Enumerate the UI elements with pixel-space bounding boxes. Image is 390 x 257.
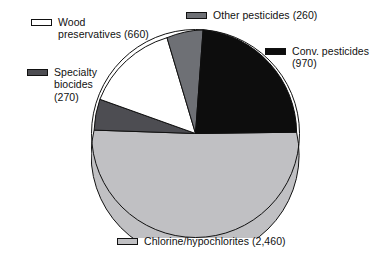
pie-chart: Other pesticides (260) Conv. pesticides … bbox=[0, 0, 390, 257]
legend-item-wood-preservatives[interactable]: Wood preservatives (660) bbox=[31, 16, 171, 41]
legend-item-other-pesticides[interactable]: Other pesticides (260) bbox=[186, 9, 317, 21]
legend-swatch-specialty-biocides bbox=[27, 69, 48, 76]
legend-label-conv-pesticides: Conv. pesticides (970) bbox=[292, 45, 369, 70]
legend-item-conv-pesticides[interactable]: Conv. pesticides (970) bbox=[265, 45, 385, 70]
legend-swatch-wood-preservatives bbox=[31, 19, 52, 26]
pie-slice-chlorine-hypochlorites[interactable] bbox=[91, 130, 299, 238]
legend-label-specialty-biocides: Specialty biocides (270) bbox=[54, 66, 97, 103]
legend-swatch-other-pesticides bbox=[186, 12, 207, 19]
legend-item-chlorine-hypochlorites[interactable]: Chlorine/hypochlorites (2,460) bbox=[117, 235, 286, 247]
legend-item-specialty-biocides[interactable]: Specialty biocides (270) bbox=[27, 66, 147, 103]
legend-label-other-pesticides: Other pesticides (260) bbox=[213, 9, 317, 21]
legend-label-chlorine-hypochlorites: Chlorine/hypochlorites (2,460) bbox=[144, 235, 286, 247]
legend-label-wood-preservatives: Wood preservatives (660) bbox=[58, 16, 149, 41]
legend-swatch-conv-pesticides bbox=[265, 48, 286, 55]
legend-swatch-chlorine-hypochlorites bbox=[117, 238, 138, 245]
